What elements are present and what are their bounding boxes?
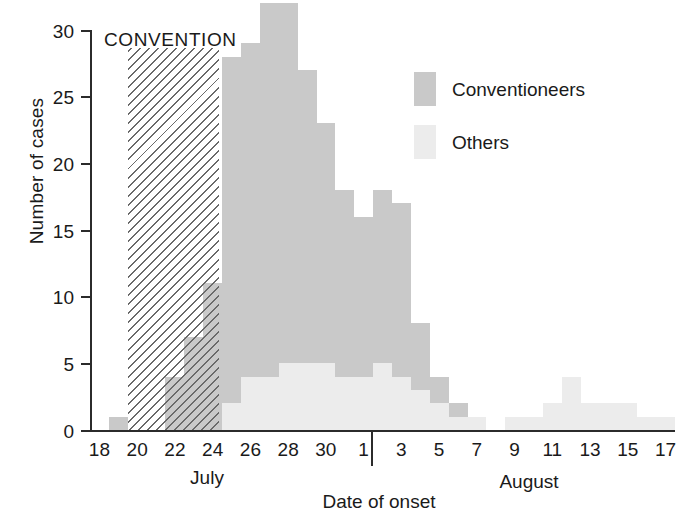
bar-others xyxy=(637,417,656,430)
bar-conventioneers xyxy=(354,217,373,377)
x-tick-label: 1 xyxy=(344,440,384,459)
bar-conventioneers xyxy=(430,377,449,404)
bar-others xyxy=(279,363,298,430)
x-tick-label: 22 xyxy=(155,440,195,459)
epidemic-curve-figure: Number of cases 0 5 10 15 20 25 30 CONVE… xyxy=(0,0,693,525)
bar-conventioneers xyxy=(298,70,317,363)
bar-conventioneers xyxy=(392,203,411,376)
bar-conventioneers xyxy=(165,377,184,430)
bar-others xyxy=(449,417,468,430)
bar-others xyxy=(581,403,600,430)
bar-conventioneers xyxy=(373,190,392,363)
bar-conventioneers xyxy=(203,283,222,430)
x-tick-label: 28 xyxy=(268,440,308,459)
x-tick-label: 3 xyxy=(381,440,421,459)
bar-others xyxy=(354,377,373,430)
y-tick-label-5: 5 xyxy=(40,355,74,374)
bar-others xyxy=(524,417,543,430)
bar-others xyxy=(335,377,354,430)
bar-conventioneers xyxy=(316,123,335,363)
y-tick-label-0: 0 xyxy=(40,422,74,441)
convention-label: CONVENTION xyxy=(104,30,237,49)
plot-area xyxy=(90,30,675,430)
bar-others xyxy=(373,363,392,430)
y-tick-label-10: 10 xyxy=(40,288,74,307)
x-tick-label: 11 xyxy=(532,440,572,459)
bar-others xyxy=(618,403,637,430)
x-tick-label: 26 xyxy=(230,440,270,459)
bar-others xyxy=(600,403,619,430)
bar-conventioneers xyxy=(279,3,298,363)
bar-others xyxy=(467,417,486,430)
y-tick-label-25: 25 xyxy=(40,88,74,107)
x-tick-label: 20 xyxy=(117,440,157,459)
x-tick-label: 7 xyxy=(457,440,497,459)
x-tick-label: 18 xyxy=(79,440,119,459)
y-tick-label-30: 30 xyxy=(40,22,74,41)
bar-others xyxy=(430,403,449,430)
bar-others xyxy=(241,377,260,430)
bar-others xyxy=(411,390,430,430)
bar-conventioneers xyxy=(260,3,279,376)
y-tick-label-20: 20 xyxy=(40,155,74,174)
x-tick-label: 15 xyxy=(608,440,648,459)
x-tick-label: 9 xyxy=(495,440,535,459)
y-tick-label-15: 15 xyxy=(40,222,74,241)
bar-conventioneers xyxy=(241,43,260,376)
legend-swatch-conventioneers xyxy=(414,72,436,106)
legend-swatch-others xyxy=(414,125,436,159)
bar-conventioneers xyxy=(449,403,468,416)
y-tick-mark xyxy=(81,430,91,432)
legend-label-conventioneers: Conventioneers xyxy=(452,80,585,99)
x-tick-label: 30 xyxy=(306,440,346,459)
bar-others xyxy=(392,377,411,430)
bar-others xyxy=(656,417,675,430)
bar-conventioneers xyxy=(109,417,128,430)
month-label-july: July xyxy=(147,468,267,487)
legend-label-others: Others xyxy=(452,133,509,152)
bar-others xyxy=(298,363,317,430)
x-axis-line xyxy=(90,430,675,432)
x-axis-title: Date of onset xyxy=(269,492,489,511)
bar-conventioneers xyxy=(184,337,203,430)
x-tick-label: 13 xyxy=(570,440,610,459)
bar-conventioneers xyxy=(222,57,241,404)
bar-others xyxy=(543,403,562,430)
month-label-august: August xyxy=(469,472,589,491)
bar-others xyxy=(222,403,241,430)
x-tick-label: 24 xyxy=(193,440,233,459)
bar-others xyxy=(260,377,279,430)
bar-others xyxy=(316,363,335,430)
month-divider xyxy=(371,432,373,466)
bar-conventioneers xyxy=(335,190,354,377)
bar-others xyxy=(562,377,581,430)
bar-others xyxy=(505,417,524,430)
x-tick-label: 5 xyxy=(419,440,459,459)
x-tick-label: 17 xyxy=(646,440,686,459)
bar-conventioneers xyxy=(411,323,430,390)
